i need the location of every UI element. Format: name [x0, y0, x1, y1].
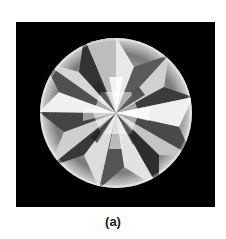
figure-caption: (a)	[0, 214, 226, 229]
image-frame	[16, 22, 215, 207]
diamond-image	[39, 37, 193, 189]
